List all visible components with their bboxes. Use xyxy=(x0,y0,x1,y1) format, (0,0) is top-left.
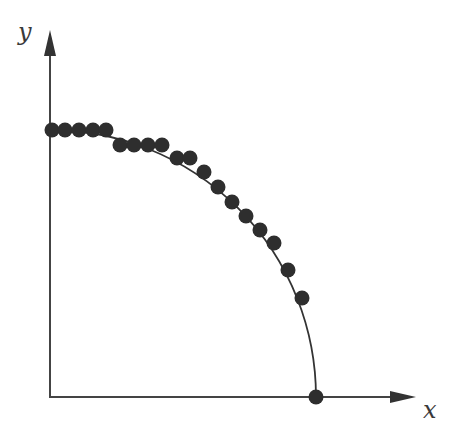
y-axis-label: y xyxy=(17,18,32,46)
data-point xyxy=(239,209,254,224)
data-point xyxy=(267,236,282,251)
data-point xyxy=(155,138,170,153)
data-point xyxy=(211,180,226,195)
data-point xyxy=(281,263,296,278)
data-point xyxy=(58,123,73,138)
data-point xyxy=(72,123,87,138)
fitted-curve xyxy=(50,130,316,397)
data-point xyxy=(170,151,185,166)
data-points xyxy=(45,123,324,405)
quarter-curve-diagram: y x xyxy=(0,0,460,434)
data-point xyxy=(197,165,212,180)
y-axis-arrow-icon xyxy=(44,30,56,56)
x-axis-label: x xyxy=(423,396,437,424)
data-point xyxy=(113,138,128,153)
data-point xyxy=(183,151,198,166)
data-point xyxy=(141,138,156,153)
x-axis-arrow-icon xyxy=(390,391,416,403)
data-point xyxy=(86,123,101,138)
data-point xyxy=(225,195,240,210)
data-point xyxy=(127,138,142,153)
data-point xyxy=(309,390,324,405)
data-point xyxy=(253,223,268,238)
data-point xyxy=(45,123,60,138)
data-point xyxy=(295,291,310,306)
data-point xyxy=(99,123,114,138)
